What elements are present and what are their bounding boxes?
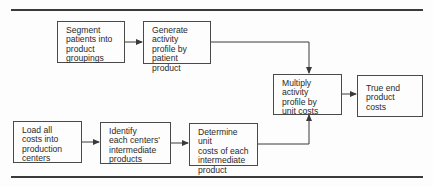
- node-generate: Generate activity profile by patient pro…: [143, 21, 211, 64]
- node-label: Determine unit costs of each intermediat…: [198, 128, 253, 175]
- node-load: Load all costs into production centers: [13, 121, 82, 163]
- node-label: Identify each centers' intermediate prod…: [109, 127, 166, 165]
- node-multiply: Multiply activity profile by unit costs: [273, 74, 342, 115]
- node-label: Multiply activity profile by unit costs: [282, 79, 337, 117]
- node-segment: Segment patients into product groupings: [57, 21, 125, 63]
- node-label: Segment patients into product groupings: [66, 26, 120, 64]
- node-label: True end product costs: [366, 84, 418, 112]
- node-determine: Determine unit costs of each intermediat…: [189, 123, 258, 166]
- node-label: Generate activity profile by patient pro…: [152, 26, 206, 73]
- node-identify: Identify each centers' intermediate prod…: [100, 122, 171, 164]
- edge-determine-multiply: [257, 115, 309, 144]
- edge-generate-multiply: [210, 42, 309, 73]
- node-true-end: True end product costs: [357, 75, 423, 117]
- node-label: Load all costs into production centers: [22, 126, 77, 164]
